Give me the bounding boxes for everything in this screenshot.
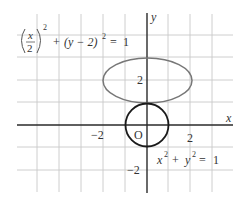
rhs-value: 1 [123,35,129,49]
tick-y-neg2: −2 [127,163,140,177]
frac-denominator: 2 [27,42,33,54]
circle-plus: + [172,153,179,167]
tick-x-neg2: −2 [91,128,104,142]
circle-equation: x 2 + y 2 = 1 [156,150,219,167]
tick-y-pos2: 2 [137,73,143,87]
outer-exponent: 2 [43,23,47,32]
circle-rhs: 1 [213,153,219,167]
equals-sign: = [110,35,117,49]
circle-y-exp: 2 [192,150,196,159]
origin-label: O [134,128,143,142]
right-paren-icon [37,29,41,53]
circle-equals: = [199,153,206,167]
term2: (y − 2) [64,35,97,49]
plus-sign: + [53,35,60,49]
coordinate-plane: y x O −2 2 2 −2 x 2 2 + (y − 2) 2 = 1 x … [0,0,246,204]
tick-x-pos2: 2 [187,131,193,145]
y-axis-label: y [150,10,157,24]
frac-numerator: x [27,29,33,41]
term2-exponent: 2 [102,32,106,41]
circle-y: y [184,153,191,167]
left-paren-icon [22,29,26,53]
ellipse-equation: x 2 2 + (y − 2) 2 = 1 [22,23,130,54]
circle-x: x [156,153,163,167]
circle-x-exp: 2 [164,150,168,159]
x-axis-label: x [225,111,232,125]
